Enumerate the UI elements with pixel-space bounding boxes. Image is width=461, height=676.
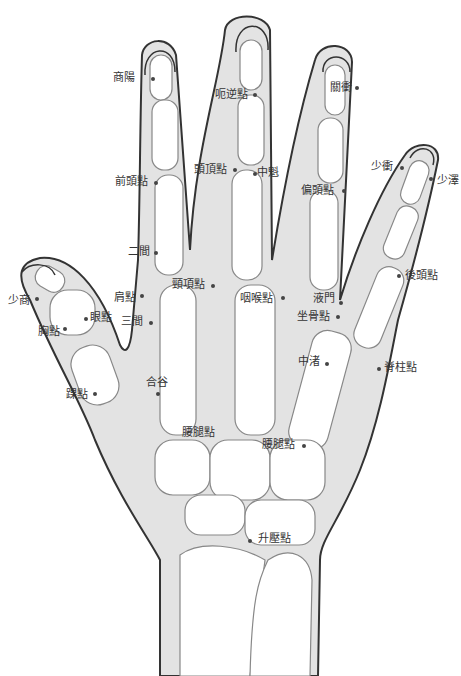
dot-jingxiang [211, 284, 215, 288]
dot-yemen [339, 301, 343, 305]
label-shaoshang: 少商 [8, 295, 30, 307]
label-sanjian: 三間 [121, 316, 143, 328]
dot-yanhou [281, 296, 285, 300]
dot-erjian [154, 251, 158, 255]
label-yemen: 液門 [313, 293, 335, 305]
label-shangyang: 商陽 [113, 72, 135, 84]
dot-jian [140, 294, 144, 298]
dot-jizhu [377, 367, 381, 371]
dot-shaoze [429, 177, 433, 181]
label-qiantou: 前頭點 [115, 176, 148, 188]
dot-eni [253, 93, 257, 97]
label-erjian: 二間 [128, 246, 150, 258]
dot-houtou [397, 274, 401, 278]
label-eni: 呃逆點 [215, 89, 248, 101]
dot-zhongkui [253, 172, 257, 176]
label-yaotui-left: 腰腿點 [182, 427, 215, 439]
label-jizhu: 脊柱點 [384, 362, 417, 374]
label-jingxiang: 頸項點 [172, 279, 205, 291]
dot-zuogu [336, 315, 340, 319]
label-zuogu: 坐骨點 [297, 311, 330, 323]
dot-shaochong [400, 166, 404, 170]
label-huai: 踝點 [66, 389, 88, 401]
dot-yan [84, 317, 88, 321]
label-houtou: 後頭點 [405, 270, 438, 282]
dot-touding [233, 168, 237, 172]
dot-qiantou [154, 181, 158, 185]
label-zhongzhu: 中渚 [298, 356, 320, 368]
dot-sanjian [149, 321, 153, 325]
dot-hegu [156, 392, 160, 396]
dot-xiong [63, 327, 67, 331]
label-shaochong: 少衝 [371, 161, 393, 173]
label-yaotui-right: 腰腿點 [262, 439, 295, 451]
dot-yaotui-right [302, 444, 306, 448]
dot-shangyang [151, 77, 155, 81]
label-shaoze: 少澤 [437, 175, 459, 187]
label-piantou: 偏頭點 [301, 185, 334, 197]
dot-shengya [248, 539, 252, 543]
dot-piantou [342, 189, 346, 193]
label-hegu: 合谷 [146, 377, 168, 389]
label-jian: 肩點 [114, 292, 136, 304]
label-yan: 眼點 [90, 312, 112, 324]
label-zhongkui: 中魁 [257, 167, 279, 179]
label-touding: 頭頂點 [194, 164, 227, 176]
label-guanchong: 關衝 [330, 82, 352, 94]
label-xiong: 胸點 [38, 326, 60, 338]
dot-guanchong [355, 86, 359, 90]
dot-huai [93, 392, 97, 396]
label-yanhou: 咽喉點 [240, 293, 273, 305]
dot-zhongzhu [325, 362, 329, 366]
dot-shaoshang [35, 297, 39, 301]
hand-skeleton-diagram [0, 0, 461, 676]
label-shengya: 升壓點 [258, 533, 291, 545]
